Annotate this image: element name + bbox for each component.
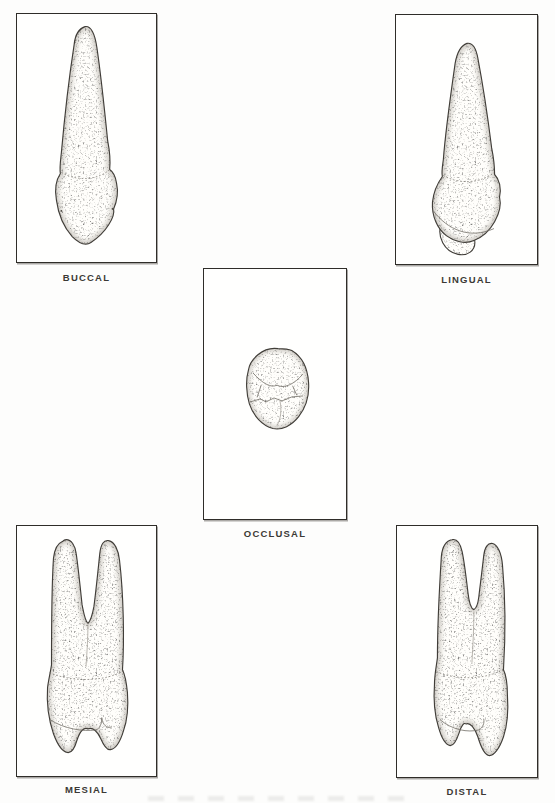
occlusal-view-label: OCCLUSAL	[203, 528, 347, 539]
cropped-caption-artifact	[148, 796, 416, 801]
lingual-tooth-illustration	[396, 15, 537, 264]
lingual-view-label: LINGUAL	[395, 274, 538, 285]
occlusal-view-panel	[203, 268, 347, 520]
mesial-view-panel	[16, 525, 157, 777]
occlusal-tooth-illustration	[204, 269, 346, 519]
mesial-view-label: MESIAL	[16, 784, 157, 795]
distal-view-label: DISTAL	[396, 786, 538, 797]
anatomy-plate-page: BUCCAL LINGUAL	[0, 0, 555, 803]
lingual-view-panel	[395, 14, 538, 265]
buccal-view-label: BUCCAL	[16, 272, 157, 283]
distal-view-panel	[396, 525, 538, 778]
mesial-tooth-illustration	[17, 526, 156, 776]
distal-tooth-illustration	[397, 526, 537, 777]
buccal-tooth-illustration	[17, 14, 156, 262]
buccal-view-panel	[16, 13, 157, 263]
